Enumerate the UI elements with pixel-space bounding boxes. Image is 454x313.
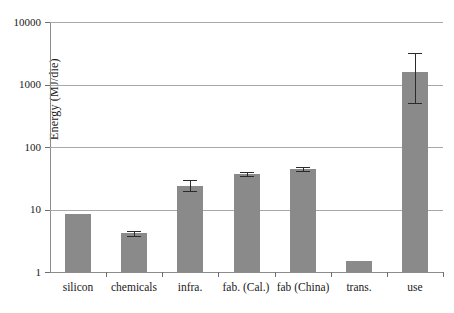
error-bar-cap-lower	[127, 236, 141, 237]
y-tick-label: 100	[0, 142, 41, 153]
error-bar-cap-upper	[183, 180, 197, 181]
gridline	[50, 85, 443, 86]
y-tick-mark	[45, 147, 50, 148]
bar	[290, 169, 316, 272]
bar	[346, 261, 372, 272]
bar	[121, 233, 147, 272]
y-tick-label: 1	[0, 267, 41, 278]
x-tick-mark	[275, 272, 276, 277]
y-tick-mark	[45, 85, 50, 86]
x-tick-label: use	[381, 281, 449, 293]
error-bar-cap-upper	[240, 172, 254, 173]
bar	[65, 214, 91, 272]
error-bar-cap-lower	[408, 103, 422, 104]
error-bar-cap-lower	[296, 171, 310, 172]
y-tick-mark	[45, 272, 50, 273]
bar	[177, 186, 203, 272]
error-bar-cap-upper	[127, 231, 141, 232]
x-tick-mark	[162, 272, 163, 277]
x-tick-mark	[443, 272, 444, 277]
y-tick-mark	[45, 22, 50, 23]
error-bar-line	[190, 180, 191, 191]
y-tick-mark	[45, 210, 50, 211]
x-axis-line	[50, 272, 444, 273]
x-tick-mark	[106, 272, 107, 277]
gridline	[50, 22, 443, 23]
error-bar-line	[415, 53, 416, 103]
y-tick-label: 10	[0, 204, 41, 215]
bar	[234, 174, 260, 272]
error-bar-cap-upper	[296, 167, 310, 168]
x-tick-mark	[387, 272, 388, 277]
y-tick-label: 10000	[0, 17, 41, 28]
x-tick-mark	[218, 272, 219, 277]
gridline	[50, 147, 443, 148]
x-tick-mark	[331, 272, 332, 277]
y-tick-label: 1000	[0, 79, 41, 90]
bar-chart: Energy (MJ/die) 110100100010000 siliconc…	[0, 0, 454, 313]
error-bar-cap-lower	[240, 176, 254, 177]
error-bar-cap-lower	[183, 191, 197, 192]
error-bar-cap-upper	[408, 53, 422, 54]
